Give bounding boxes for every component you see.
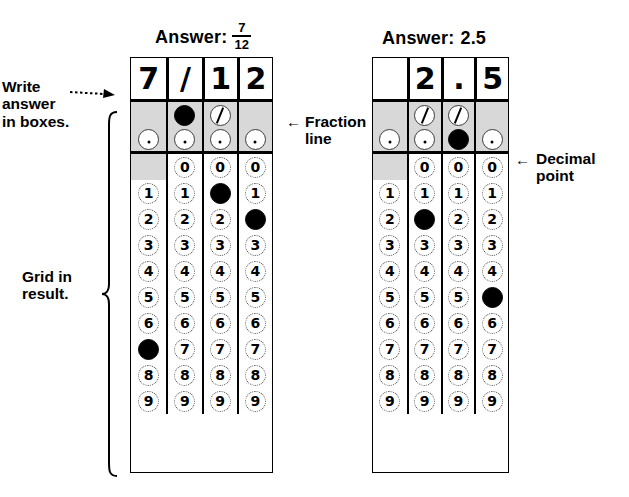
fraction-answer-grid[interactable]: 7/12000111222333344445555666677788889999 <box>130 57 273 473</box>
decimal-dot-icon[interactable] <box>245 129 266 150</box>
digit-3-bubble-1[interactable]: 3 <box>373 232 407 258</box>
digit-7-bubble-3[interactable]: 7 <box>202 336 237 362</box>
digit-bubble-0[interactable]: 0 <box>482 157 503 178</box>
digit-bubble-8[interactable]: 8 <box>448 365 469 386</box>
digit-7-bubble-4[interactable]: 7 <box>474 336 508 362</box>
digit-2-bubble-3[interactable]: 2 <box>202 206 237 232</box>
digit-bubble-4[interactable]: 4 <box>379 261 400 282</box>
digit-5-bubble-1[interactable]: 5 <box>131 284 166 310</box>
digit-bubble-8[interactable]: 8 <box>174 365 195 386</box>
digit-6-bubble-3[interactable]: 6 <box>202 310 237 336</box>
digit-bubble-8[interactable]: 8 <box>210 365 231 386</box>
fraction-line-bubble-3[interactable] <box>441 102 475 128</box>
decimal-dot-icon[interactable] <box>482 129 503 150</box>
digit-bubble-9[interactable]: 9 <box>448 391 469 412</box>
digit-bubble-3[interactable]: 3 <box>210 235 231 256</box>
write-box-1[interactable] <box>373 58 407 99</box>
digit-bubble-4[interactable]: 4 <box>245 261 266 282</box>
digit-bubble-7[interactable]: 7 <box>414 339 435 360</box>
digit-bubble-4[interactable]: 4 <box>448 261 469 282</box>
fraction-slash-icon[interactable] <box>210 105 231 126</box>
digit-bubble-0[interactable]: 0 <box>414 157 435 178</box>
decimal-answer-grid[interactable]: 2.50001111222333344445556666777788889999 <box>372 57 509 473</box>
digit-bubble-7[interactable]: 7 <box>210 339 231 360</box>
fraction-line-bubble-3[interactable] <box>202 102 237 128</box>
digit-0-bubble-4[interactable]: 0 <box>237 154 272 180</box>
fraction-line-bubble-2[interactable] <box>166 102 201 128</box>
digit-3-bubble-2[interactable]: 3 <box>166 232 201 258</box>
digit-bubble-9[interactable]: 9 <box>174 391 195 412</box>
digit-4-bubble-1[interactable]: 4 <box>373 258 407 284</box>
digit-bubble-6[interactable]: 6 <box>448 313 469 334</box>
digit-0-bubble-3[interactable]: 0 <box>202 154 237 180</box>
digit-bubble-3[interactable]: 3 <box>174 235 195 256</box>
digit-4-bubble-4[interactable]: 4 <box>474 258 508 284</box>
digit-8-bubble-3[interactable]: 8 <box>441 362 475 388</box>
decimal-point-bubble-2[interactable] <box>407 128 441 151</box>
digit-bubble-9[interactable]: 9 <box>210 391 231 412</box>
digit-5-bubble-4[interactable]: 5 <box>237 284 272 310</box>
digit-9-bubble-4[interactable]: 9 <box>237 388 272 414</box>
digit-bubble-5[interactable]: 5 <box>245 287 266 308</box>
digit-bubble-8[interactable]: 8 <box>414 365 435 386</box>
digit-bubble-7[interactable]: 7 <box>448 339 469 360</box>
fraction-slash-icon[interactable] <box>414 105 435 126</box>
digit-bubble-6[interactable]: 6 <box>245 313 266 334</box>
digit-bubble-2[interactable]: 2 <box>210 209 231 230</box>
write-box-1[interactable]: 7 <box>131 58 166 99</box>
digit-3-bubble-3[interactable]: 3 <box>202 232 237 258</box>
digit-bubble-9[interactable]: 9 <box>379 391 400 412</box>
digit-bubble-6[interactable]: 6 <box>210 313 231 334</box>
digit-7-bubble-4[interactable]: 7 <box>237 336 272 362</box>
digit-bubble-1[interactable]: 1 <box>448 183 469 204</box>
decimal-dot-icon[interactable] <box>174 129 195 150</box>
digit-9-bubble-1[interactable]: 9 <box>373 388 407 414</box>
filled-bubble[interactable] <box>245 209 266 230</box>
digit-bubble-8[interactable]: 8 <box>138 365 159 386</box>
filled-bubble[interactable] <box>448 129 469 150</box>
digit-bubble-0[interactable]: 0 <box>174 157 195 178</box>
digit-bubble-6[interactable]: 6 <box>174 313 195 334</box>
write-box-4[interactable]: 5 <box>474 58 508 99</box>
digit-5-bubble-2[interactable]: 5 <box>407 284 441 310</box>
digit-bubble-7[interactable]: 7 <box>482 339 503 360</box>
digit-4-bubble-4[interactable]: 4 <box>237 258 272 284</box>
digit-4-bubble-3[interactable]: 4 <box>202 258 237 284</box>
decimal-dot-icon[interactable] <box>379 129 400 150</box>
digit-8-bubble-1[interactable]: 8 <box>131 362 166 388</box>
digit-bubble-9[interactable]: 9 <box>482 391 503 412</box>
decimal-point-bubble-3[interactable] <box>441 128 475 151</box>
digit-bubble-3[interactable]: 3 <box>245 235 266 256</box>
digit-3-bubble-4[interactable]: 3 <box>237 232 272 258</box>
digit-4-bubble-2[interactable]: 4 <box>166 258 201 284</box>
digit-bubble-2[interactable]: 2 <box>138 209 159 230</box>
digit-8-bubble-4[interactable]: 8 <box>237 362 272 388</box>
digit-bubble-2[interactable]: 2 <box>379 209 400 230</box>
digit-5-bubble-1[interactable]: 5 <box>373 284 407 310</box>
digit-bubble-1[interactable]: 1 <box>138 183 159 204</box>
digit-7-bubble-2[interactable]: 7 <box>166 336 201 362</box>
digit-bubble-6[interactable]: 6 <box>138 313 159 334</box>
digit-9-bubble-4[interactable]: 9 <box>474 388 508 414</box>
digit-4-bubble-1[interactable]: 4 <box>131 258 166 284</box>
filled-bubble[interactable] <box>174 105 195 126</box>
decimal-point-bubble-1[interactable] <box>131 128 166 151</box>
digit-bubble-1[interactable]: 1 <box>245 183 266 204</box>
digit-8-bubble-3[interactable]: 8 <box>202 362 237 388</box>
digit-bubble-6[interactable]: 6 <box>482 313 503 334</box>
digit-1-bubble-4[interactable]: 1 <box>474 180 508 206</box>
write-box-2[interactable]: / <box>166 58 201 99</box>
digit-9-bubble-2[interactable]: 9 <box>407 388 441 414</box>
digit-bubble-6[interactable]: 6 <box>414 313 435 334</box>
digit-1-bubble-2[interactable]: 1 <box>407 180 441 206</box>
digit-1-bubble-1[interactable]: 1 <box>373 180 407 206</box>
write-box-4[interactable]: 2 <box>237 58 272 99</box>
digit-bubble-9[interactable]: 9 <box>245 391 266 412</box>
digit-0-bubble-2[interactable]: 0 <box>407 154 441 180</box>
digit-bubble-1[interactable]: 1 <box>482 183 503 204</box>
digit-9-bubble-3[interactable]: 9 <box>441 388 475 414</box>
digit-bubble-3[interactable]: 3 <box>379 235 400 256</box>
digit-6-bubble-1[interactable]: 6 <box>131 310 166 336</box>
digit-bubble-3[interactable]: 3 <box>448 235 469 256</box>
write-box-3[interactable]: 1 <box>202 58 237 99</box>
